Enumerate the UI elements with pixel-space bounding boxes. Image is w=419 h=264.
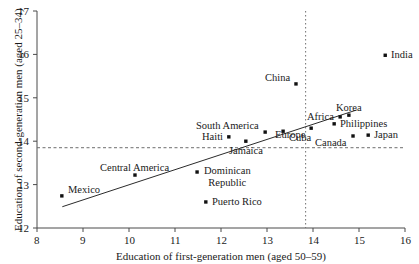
point-label: DominicanRepublic bbox=[204, 165, 251, 189]
data-point bbox=[351, 134, 354, 137]
x-axis-title: Education of first-generation men (aged … bbox=[116, 250, 326, 262]
y-axis-title: Education of second-generation men (aged… bbox=[12, 8, 24, 231]
data-point bbox=[60, 194, 63, 197]
point-label: Puerto Rico bbox=[212, 196, 262, 207]
x-tick-label: 16 bbox=[400, 234, 411, 246]
point-label: Korea bbox=[336, 102, 362, 113]
scatter-plot-figure: 8910111213141516121314151617 MexicoCentr… bbox=[0, 0, 419, 264]
x-tick-label: 8 bbox=[34, 234, 40, 246]
x-tick-label: 11 bbox=[170, 234, 181, 246]
data-point bbox=[195, 170, 198, 173]
x-tick-label: 10 bbox=[124, 234, 135, 246]
data-point bbox=[204, 200, 207, 203]
point-label: Jamaica bbox=[229, 145, 263, 156]
data-point bbox=[367, 133, 370, 136]
data-point bbox=[244, 140, 247, 143]
x-tick-label: 12 bbox=[216, 234, 227, 246]
x-tick-label: 9 bbox=[80, 234, 86, 246]
x-tick-label: 15 bbox=[354, 234, 365, 246]
data-point bbox=[332, 122, 335, 125]
point-label: Canada bbox=[315, 137, 347, 148]
data-point bbox=[309, 126, 312, 129]
point-label: South America bbox=[196, 120, 259, 131]
data-point bbox=[294, 82, 297, 85]
x-tick-label: 13 bbox=[262, 234, 273, 246]
point-label: India bbox=[391, 49, 413, 60]
data-point bbox=[227, 135, 230, 138]
point-label: Europe bbox=[275, 129, 305, 140]
data-point bbox=[263, 130, 266, 133]
point-label: China bbox=[265, 72, 290, 83]
point-label: Philippines bbox=[340, 118, 387, 129]
point-label: Mexico bbox=[68, 184, 100, 195]
data-point bbox=[347, 113, 350, 116]
point-label: Central America bbox=[100, 162, 169, 173]
x-tick-label: 14 bbox=[308, 234, 319, 246]
data-point bbox=[384, 54, 387, 57]
data-point bbox=[133, 173, 136, 176]
point-label: Japan bbox=[374, 129, 398, 140]
point-label: Africa bbox=[307, 111, 334, 122]
point-label: Haiti bbox=[202, 131, 223, 142]
